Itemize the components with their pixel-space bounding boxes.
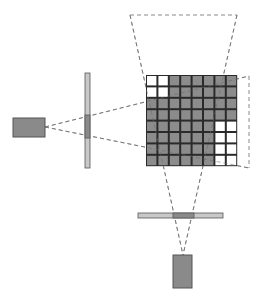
grid-cell-filled	[215, 110, 224, 119]
grid-cell-empty	[227, 122, 236, 131]
grid-cell-filled	[204, 110, 213, 119]
grid-cell-filled	[193, 133, 202, 142]
grid-cell-filled	[193, 122, 202, 131]
grid-cell-filled	[181, 133, 190, 142]
grid-cell-empty	[227, 133, 236, 142]
grid-cell-filled	[204, 87, 213, 96]
grid-cell-empty	[227, 156, 236, 165]
grid-cell-empty	[158, 76, 167, 85]
grid-cell-empty	[215, 133, 224, 142]
left-source-box	[13, 118, 45, 137]
grid-cell-filled	[227, 99, 236, 108]
grid-cell-filled	[181, 144, 190, 153]
grid-cell-filled	[147, 122, 156, 131]
grid-cell-empty	[215, 144, 224, 153]
grid-cell-filled	[158, 122, 167, 131]
projection-diagram	[0, 0, 261, 299]
grid-cell-filled	[181, 99, 190, 108]
grid-cell-empty	[215, 156, 224, 165]
vertical-detector	[85, 73, 90, 168]
bottom-source-box	[173, 255, 192, 288]
grid-cell-filled	[170, 110, 179, 119]
grid-cell-filled	[193, 144, 202, 153]
horizontal-detector-active-segment	[173, 213, 194, 218]
grid-cell-filled	[170, 99, 179, 108]
grid-cell-filled	[158, 144, 167, 153]
grid-cell-filled	[204, 144, 213, 153]
grid-cell-filled	[181, 122, 190, 131]
grid-cell-filled	[227, 110, 236, 119]
grid-cell-filled	[170, 87, 179, 96]
grid-cell-filled	[170, 133, 179, 142]
grid-cell-filled	[158, 133, 167, 142]
grid-cell-empty	[158, 87, 167, 96]
grid-cell-empty	[147, 76, 156, 85]
grid-cell-filled	[193, 110, 202, 119]
grid-cell-empty	[147, 87, 156, 96]
grid-cell-filled	[170, 76, 179, 85]
grid-cell-filled	[215, 87, 224, 96]
vertical-detector-active-segment	[85, 115, 90, 138]
grid-cell-filled	[193, 76, 202, 85]
grid-cell-filled	[215, 99, 224, 108]
grid-cell-filled	[170, 156, 179, 165]
grid-cell-empty	[227, 144, 236, 153]
horizontal-detector	[138, 213, 223, 218]
grid-cell-filled	[204, 99, 213, 108]
grid-cell-filled	[193, 99, 202, 108]
grid-cell-filled	[147, 156, 156, 165]
grid-cell-filled	[227, 87, 236, 96]
grid-cell-filled	[204, 76, 213, 85]
grid-cell-filled	[158, 110, 167, 119]
grid-cell-filled	[181, 76, 190, 85]
grid-cell-filled	[158, 156, 167, 165]
grid-cell-filled	[170, 122, 179, 131]
grid-cell-filled	[181, 110, 190, 119]
grid-cell-empty	[215, 122, 224, 131]
grid-cell-filled	[158, 99, 167, 108]
grid-cell-filled	[147, 133, 156, 142]
grid-cell-filled	[181, 87, 190, 96]
grid-cell-filled	[181, 156, 190, 165]
pixel-grid	[146, 75, 237, 166]
